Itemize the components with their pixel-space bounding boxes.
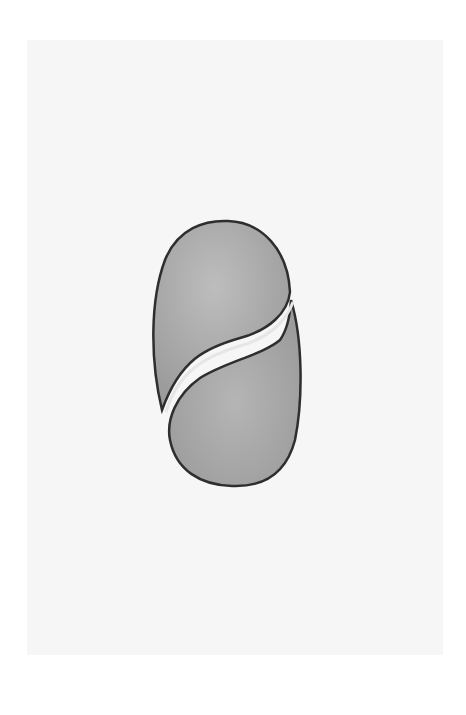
seed-illustration — [0, 0, 466, 715]
